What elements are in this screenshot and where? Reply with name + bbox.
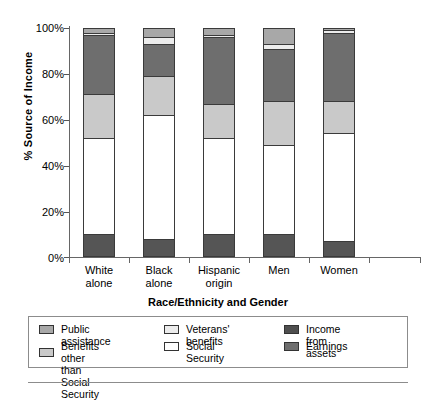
bar-white-alone xyxy=(83,28,115,257)
x-tick-mark xyxy=(249,258,250,263)
segment-income-from-assets xyxy=(84,94,114,138)
segment-earnings xyxy=(264,234,294,257)
legend-swatch-icon xyxy=(284,342,299,351)
footer-divider xyxy=(28,382,408,383)
x-tick-mark xyxy=(129,258,130,263)
x-tick-label-women: Women xyxy=(299,264,379,277)
legend-swatch-icon xyxy=(164,325,179,334)
chart-legend: Public assistanceBenefits other than Soc… xyxy=(28,316,408,368)
segment-benefits-other-than-social-security xyxy=(84,35,114,95)
segment-income-from-assets xyxy=(204,104,234,138)
stacked-bar-chart: % Source of Income 100% 80% 60% 40% 20% … xyxy=(0,0,436,300)
bar-women xyxy=(323,28,355,257)
legend-swatch-icon xyxy=(284,325,299,334)
segment-benefits-other-than-social-security xyxy=(324,33,354,102)
segment-benefits-other-than-social-security xyxy=(144,44,174,76)
x-tick-mark xyxy=(420,258,421,263)
plot-area xyxy=(0,0,436,257)
segment-earnings xyxy=(324,241,354,257)
segment-public-assistance xyxy=(204,28,234,35)
segment-benefits-other-than-social-security xyxy=(204,37,234,103)
bar-hispanic-origin xyxy=(203,28,235,257)
x-tick-mark xyxy=(69,258,70,263)
bar-black-alone xyxy=(143,28,175,257)
segment-income-from-assets xyxy=(264,101,294,145)
segment-social-security xyxy=(204,138,234,234)
segment-public-assistance xyxy=(144,28,174,37)
segment-social-security xyxy=(324,133,354,241)
x-axis-title: Race/Ethnicity and Gender xyxy=(0,296,436,308)
segment-earnings xyxy=(144,239,174,257)
legend-label: Benefits other than Social Security xyxy=(61,340,99,400)
legend-swatch-icon xyxy=(164,342,179,351)
bar-men xyxy=(263,28,295,257)
segment-income-from-assets xyxy=(324,101,354,133)
legend-swatch-icon xyxy=(39,325,54,334)
segment-earnings xyxy=(84,234,114,257)
segment-social-security xyxy=(144,115,174,239)
segment-social-security xyxy=(264,145,294,234)
legend-label: Earnings xyxy=(306,340,347,352)
segment-benefits-other-than-social-security xyxy=(264,49,294,102)
x-tick-mark xyxy=(189,258,190,263)
segment-income-from-assets xyxy=(144,76,174,115)
x-tick-mark xyxy=(369,258,370,263)
segment-veterans-benefits xyxy=(144,37,174,44)
segment-earnings xyxy=(204,234,234,257)
legend-label: Social Security xyxy=(186,340,224,364)
segment-public-assistance xyxy=(264,28,294,44)
segment-social-security xyxy=(84,138,114,234)
legend-swatch-icon xyxy=(39,348,54,357)
x-tick-mark xyxy=(309,258,310,263)
